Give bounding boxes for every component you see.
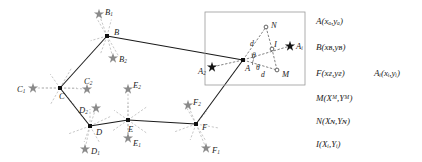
inset-annotation-theta-upper: θ (252, 52, 256, 60)
inset-point-M (275, 68, 279, 72)
inset-label-N: N (271, 21, 277, 30)
ray-E-2 (128, 107, 147, 120)
vertex-dot-C (58, 86, 62, 90)
vertex-dot-A (241, 58, 245, 62)
star-label-D2: D2 (79, 106, 88, 115)
vertex-label-D: D (96, 128, 102, 137)
edge-AB (107, 36, 243, 60)
vertex-dot-D (88, 124, 92, 128)
star-marker-F2 (183, 100, 193, 110)
ray-C-3 (50, 74, 60, 88)
vertex-label-F: F (202, 123, 207, 132)
inset-star-Ai (285, 41, 295, 51)
vertex-dot-F (194, 122, 198, 126)
inset-point-N (264, 25, 268, 29)
legend-F: F(xғ,yғ) (316, 68, 345, 78)
inset-annotation-d-lower: d (261, 71, 265, 79)
star-marker-D2 (91, 103, 101, 113)
inset-annotation-d-upper: d (250, 40, 254, 48)
ray-to-B2 (107, 36, 113, 58)
ray-F-3 (190, 124, 196, 140)
inset-label-I: I (274, 40, 277, 49)
star-marker-F1 (201, 143, 211, 153)
ray-B-4 (97, 19, 107, 36)
inset-detail-layer (205, 12, 305, 85)
star-label-C1: C1 (17, 85, 25, 94)
star-marker-E1 (123, 133, 133, 143)
vertex-label-A: A (245, 64, 250, 73)
ray-F-5 (196, 124, 219, 128)
inset-annotation-theta-lower: θ (256, 64, 260, 72)
legend-N: N(Xɴ,Yɴ) (316, 116, 350, 126)
ray-B-3 (107, 20, 111, 36)
vertex-dot-B (105, 34, 109, 38)
star-label-F1: F1 (212, 146, 220, 155)
star-label-B2: B2 (119, 55, 127, 64)
angle-arc-lower (252, 60, 253, 66)
vertex-label-B: B (114, 28, 119, 37)
figure-svg (0, 0, 422, 162)
ray-E-3 (114, 110, 128, 120)
vertex-label-C: C (59, 92, 65, 101)
dashed-ray-fans (33, 14, 219, 149)
legend-Ai: Aᵢ(xᵢ,yᵢ) (374, 68, 400, 78)
star-marker-C1 (28, 83, 38, 93)
vertex-dot-E (126, 118, 130, 122)
legend-I: I(Xᵢ,Yᵢ) (316, 139, 341, 149)
inset-seg-NI (266, 27, 272, 49)
edge-DE (90, 120, 128, 126)
ray-B-2 (107, 36, 119, 56)
inset-label-M: M (282, 70, 289, 79)
inset-star-A2 (207, 62, 217, 72)
ray-B-1 (100, 36, 107, 55)
star-label-E2: E2 (133, 81, 141, 90)
diagram-canvas: ABCDEFB1B2C1C2D1D2E1E2F1F2NMIAiA2ddθθ A(… (0, 0, 422, 162)
ray-D-2 (68, 126, 90, 134)
star-marker-B2 (108, 53, 118, 63)
ray-F-2 (174, 124, 196, 132)
legend-A: A(xₐ,yₐ) (316, 16, 343, 26)
star-label-D1: D1 (91, 147, 100, 156)
star-label-E1: E1 (133, 139, 141, 148)
inset-border (205, 12, 305, 85)
inset-seg-AAi (243, 46, 290, 60)
inset-label-A2: A2 (198, 67, 206, 76)
inset-label-Ai: Ai (296, 42, 303, 51)
star-label-F2: F2 (193, 98, 201, 107)
edge-EF (128, 120, 196, 124)
inset-seg-MI (272, 49, 277, 70)
star-marker-B1 (94, 9, 104, 19)
star-label-B1: B1 (105, 8, 113, 17)
star-marker-E2 (123, 84, 133, 94)
legend-B: B(xʙ,yʙ) (316, 42, 345, 52)
ray-F-1 (186, 107, 196, 124)
legend-M: M(Xᴹ,Yᴹ) (316, 93, 352, 103)
vertex-label-E: E (128, 125, 133, 134)
star-marker-D1 (80, 144, 90, 154)
ray-C-2 (60, 68, 72, 88)
star-label-C2: C2 (84, 77, 92, 86)
